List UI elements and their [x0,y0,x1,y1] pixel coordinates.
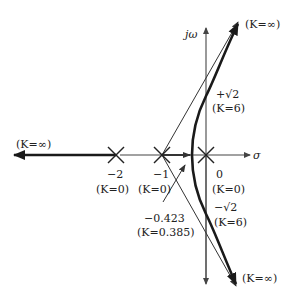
pole-label-minus-2: −2 [107,168,123,181]
pole-label-0: 0 [216,168,223,181]
pole-gain-0: (K=0) [212,183,245,196]
k-inf-left-label: (K=∞) [16,138,51,151]
breakaway-gain: (K=0.385) [137,226,195,239]
root-locus-diagram: jω σ (K=∞) (K=∞) (K=∞) −2 (K=0) −1 (K=0)… [0,0,294,300]
crossing-upper-gain: (K=6) [212,102,245,115]
real-axis-label: σ [253,149,261,162]
breakaway-value: −0.423 [144,212,185,225]
imag-axis-label: jω [182,28,197,41]
crossing-lower-gain: (K=6) [214,216,247,229]
pole-gain-minus-1: (K=0) [138,183,171,196]
k-inf-lower-label: (K=∞) [242,272,277,285]
k-inf-upper-label: (K=∞) [245,18,280,31]
pole-label-minus-1: −1 [153,168,169,181]
crossing-upper-value: +√2 [216,88,239,101]
pole-gain-minus-2: (K=0) [96,183,129,196]
crossing-lower-value: −√2 [214,201,237,214]
